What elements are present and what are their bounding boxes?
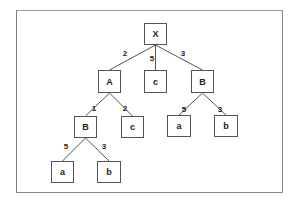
edge-weight-B1-a1: 5 — [182, 106, 186, 114]
edge-B1-b1 — [203, 93, 227, 115]
edge-weight-X-B1: 3 — [181, 50, 185, 58]
edge-weight-B2-a2: 5 — [64, 143, 68, 151]
node-B1: B — [191, 70, 214, 93]
node-label: a — [176, 121, 181, 131]
node-label: B — [199, 77, 206, 87]
node-b2: b — [97, 161, 121, 183]
node-label: c — [153, 77, 158, 87]
edge-A-c2 — [110, 93, 133, 116]
edge-weight-B1-b1: 3 — [218, 106, 222, 114]
node-b1: b — [214, 115, 238, 137]
edge-X-B1 — [156, 45, 203, 70]
edge-weight-A-B2: 1 — [92, 105, 96, 113]
node-label: c — [130, 122, 135, 132]
node-label: A — [106, 77, 113, 87]
edge-A-B2 — [86, 93, 110, 116]
node-B2: B — [74, 116, 97, 138]
node-label: X — [152, 29, 158, 39]
node-label: b — [106, 167, 112, 177]
node-label: b — [223, 121, 229, 131]
node-A: A — [98, 70, 121, 93]
node-label: B — [82, 122, 89, 132]
node-c2: c — [121, 116, 144, 138]
node-a1: a — [167, 115, 191, 137]
node-X: X — [144, 23, 167, 45]
node-label: a — [60, 167, 65, 177]
edge-weight-X-A: 2 — [123, 50, 127, 58]
node-c1: c — [144, 70, 167, 93]
edge-weight-A-c2: 2 — [123, 105, 127, 113]
edge-X-A — [110, 45, 156, 70]
node-a2: a — [51, 161, 74, 183]
edge-weight-X-c1: 5 — [150, 55, 154, 63]
edge-weight-B2-b2: 3 — [102, 143, 106, 151]
